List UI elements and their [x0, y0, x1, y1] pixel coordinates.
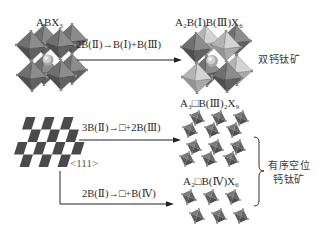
- double-perovskite-formula-label: A₂B(Ⅰ)B(Ⅲ)X₆: [175, 16, 243, 28]
- double-perovskite-structure: [180, 24, 254, 95]
- double-perovskite-reaction-label: 2B(Ⅱ)→B(Ⅰ)+B(Ⅲ): [76, 39, 161, 51]
- arrow-vacancy-branch-1: [79, 137, 181, 142]
- isolated-vacancy-formula-label: A₂□B(Ⅳ)X₆: [183, 175, 239, 187]
- vacancy-ordered-category-line-2: 钙钛矿: [273, 174, 305, 186]
- direction-111-label: <111>: [70, 157, 98, 169]
- dimer-vacancy-reaction-label: 3B(Ⅱ)→□+2B(Ⅲ): [82, 122, 161, 134]
- vacancy-ordered-isolated-structure: [181, 189, 249, 224]
- vacancy-ordered-dimer-structure: [179, 110, 249, 167]
- vacancy-ordered-category-line-1: 有序空位: [268, 160, 310, 172]
- double-perovskite-category-label: 双钙钛矿: [258, 54, 300, 66]
- perovskite-derivation-diagram: ABX₃ A₂B(Ⅰ)B(Ⅲ)X₆ 2B(Ⅱ)→B(Ⅰ)+B(Ⅲ) 双钙钛矿 A…: [0, 0, 320, 236]
- abx3-label: ABX₃: [36, 16, 63, 28]
- arrow-double-perovskite: [77, 57, 182, 62]
- grouping-brace: [254, 137, 264, 206]
- diagram-graphics: [0, 0, 320, 236]
- simple-perovskite-structure: [15, 23, 89, 93]
- dimer-vacancy-formula-label: A₃□B(Ⅲ)₂X₉: [180, 97, 239, 109]
- isolated-vacancy-reaction-label: 2B(Ⅱ)→□+B(Ⅳ): [82, 188, 156, 200]
